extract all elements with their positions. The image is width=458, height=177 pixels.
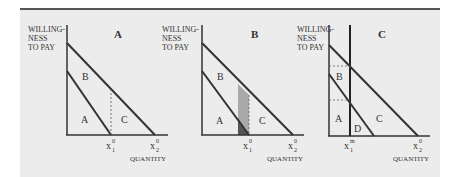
ylabel-line2: NESS (297, 34, 317, 43)
tick-x1: x (106, 140, 111, 151)
tick-x2-sup: 0 (294, 138, 297, 144)
tick-x1: x (243, 140, 248, 151)
panel-b: WILLING- NESS TO PAY B B A C x 1 0 x 2 0… (162, 25, 304, 163)
ylabel-line2: NESS (162, 34, 182, 43)
region-a: A (335, 113, 343, 124)
region-b: B (82, 71, 89, 82)
tick-x2: x (150, 140, 155, 151)
tick-x2-sub: 2 (294, 147, 297, 153)
ylabel-line3: TO PAY (28, 43, 55, 52)
tick-x2: x (413, 140, 418, 151)
tick-x1-sub: 1 (350, 147, 353, 153)
panel-title: A (114, 28, 122, 40)
inner-demand-line (67, 71, 111, 135)
tick-x1-sup: m (350, 138, 355, 144)
region-a: A (81, 114, 89, 125)
region-c: C (259, 115, 266, 126)
tick-x1-sup: 0 (112, 138, 115, 144)
ylabel-line3: TO PAY (297, 43, 324, 52)
region-b: B (217, 71, 224, 82)
tick-x2-sup: 0 (419, 138, 422, 144)
ylabel-line2: NESS (28, 34, 48, 43)
ylabel-line3: TO PAY (162, 43, 189, 52)
xlabel: QUANTITY (393, 155, 429, 163)
xlabel: QUANTITY (130, 155, 166, 163)
panel-c: WILLING- NESS TO PAY C B A C D x 1 m x 2… (297, 25, 430, 163)
panel-a: WILLING- NESS TO PAY A B A C x 1 0 x 2 0… (28, 25, 168, 163)
tick-x1-sub: 1 (112, 147, 115, 153)
xlabel: QUANTITY (267, 155, 303, 163)
ylabel-line1: WILLING- (28, 25, 65, 34)
tick-x1: x (344, 140, 349, 151)
region-c: C (376, 113, 383, 124)
diagram-canvas: WILLING- NESS TO PAY A B A C x 1 0 x 2 0… (0, 0, 458, 177)
outer-demand-line (329, 45, 418, 136)
tick-x1-sup: 0 (249, 138, 252, 144)
tick-x2-sub: 2 (156, 147, 159, 153)
panel-title: B (251, 28, 259, 40)
region-b: B (336, 71, 343, 82)
tick-x2-sup: 0 (156, 138, 159, 144)
ylabel-line1: WILLING- (162, 25, 199, 34)
region-d: D (354, 123, 361, 134)
tick-x2: x (288, 140, 293, 151)
panel-title: C (378, 28, 386, 40)
tick-x2-sub: 2 (419, 147, 422, 153)
region-a: A (216, 115, 224, 126)
region-c: C (121, 114, 128, 125)
tick-x1-sub: 1 (249, 147, 252, 153)
